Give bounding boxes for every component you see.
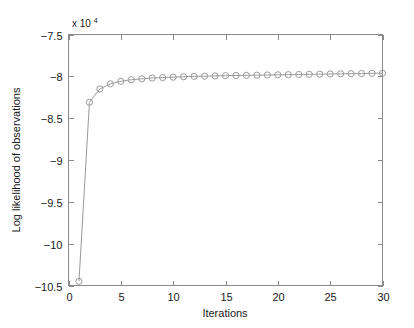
y-tick-label: −8.5 — [41, 113, 63, 125]
figure-container: −10.5−10−9.5−9−8.5−8−7.5 051015202530 x … — [0, 0, 414, 328]
x-tick-label: 0 — [66, 291, 72, 303]
y-tick-label: −7.5 — [41, 30, 63, 42]
x-axis-title: Iterations — [202, 307, 248, 319]
y-tick-label: −9.5 — [41, 197, 63, 209]
y-tick-label: −10 — [44, 239, 63, 251]
x-tick-label: 30 — [377, 291, 389, 303]
line-chart: −10.5−10−9.5−9−8.5−8−7.5 051015202530 x … — [0, 0, 414, 328]
y-tick-label: −10.5 — [35, 281, 63, 293]
y-tick-label: −9 — [50, 155, 63, 167]
x-tick-label: 20 — [272, 291, 284, 303]
x-tick-label: 25 — [324, 291, 336, 303]
x-tick-label: 5 — [118, 291, 124, 303]
y-axis-title: Log likelihood of observations — [10, 87, 22, 232]
multiplier-exponent: 4 — [94, 17, 98, 24]
multiplier-base: x 10 — [72, 18, 94, 29]
x-tick-label: 15 — [220, 291, 232, 303]
x-tick-label: 10 — [167, 291, 179, 303]
y-tick-label: −8 — [50, 71, 63, 83]
